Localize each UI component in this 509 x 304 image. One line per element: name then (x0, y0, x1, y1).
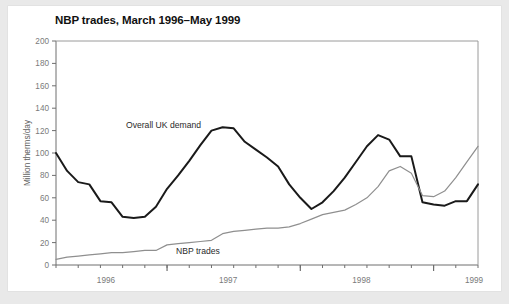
y-axis-title-text: Million therms/day (23, 119, 32, 186)
y-tick-label: 160 (35, 82, 49, 91)
series-line (56, 127, 478, 218)
y-tick-label: 80 (40, 171, 50, 180)
chart-card: NBP trades, March 1996–May 1999 02040608… (8, 6, 501, 291)
x-axis: 1996199719981999 (56, 265, 484, 285)
series-line (56, 146, 478, 259)
y-tick-label: 200 (35, 37, 49, 46)
y-tick-label: 180 (35, 59, 49, 68)
y-tick-label: 100 (35, 149, 49, 158)
plot-frame (56, 41, 478, 265)
y-tick-label: 20 (40, 239, 50, 248)
chart-plot: 020406080100120140160180200 199619971998… (8, 6, 501, 291)
y-tick-label: 120 (35, 127, 49, 136)
y-axis: 020406080100120140160180200 (35, 37, 56, 270)
x-tick-label: 1996 (97, 276, 116, 285)
y-tick-label: 0 (44, 261, 49, 270)
y-tick-label: 140 (35, 104, 49, 113)
series-annotations: Overall UK demandNBP trades (126, 120, 220, 256)
x-tick-label: 1999 (465, 276, 484, 285)
x-tick-label: 1998 (352, 276, 371, 285)
series-label: NBP trades (176, 246, 220, 256)
y-axis-title: Million therms/day (23, 119, 32, 186)
y-tick-label: 40 (40, 216, 50, 225)
x-tick-label: 1997 (219, 276, 238, 285)
series-lines (56, 127, 478, 259)
series-label: Overall UK demand (126, 120, 201, 130)
y-tick-label: 60 (40, 194, 50, 203)
